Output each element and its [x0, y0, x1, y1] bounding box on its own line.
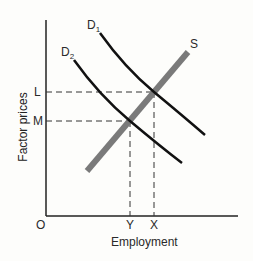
d2-label: D2 — [61, 45, 74, 61]
d1-label: D1 — [87, 18, 100, 34]
price-l-label: L — [34, 85, 41, 99]
supply-curve — [87, 52, 188, 171]
x-axis-title: Employment — [111, 235, 178, 249]
employment-y-label: Y — [126, 218, 134, 232]
price-m-label: M — [33, 114, 43, 128]
employment-x-label: X — [150, 218, 158, 232]
origin-label: O — [36, 218, 45, 232]
s-label: S — [190, 37, 198, 51]
y-axis-title: Factor prices — [16, 82, 30, 172]
